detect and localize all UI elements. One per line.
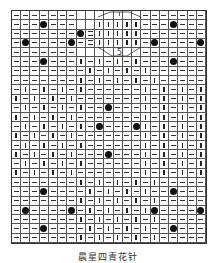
purl-dash-icon	[188, 122, 197, 131]
purl-dash-icon	[114, 122, 123, 131]
purl-dash-icon	[49, 39, 58, 48]
purl-dash-icon	[197, 224, 206, 233]
knit-bar-icon	[141, 187, 150, 196]
purl-dash-icon	[58, 150, 67, 159]
purl-dash-icon	[67, 48, 76, 57]
purl-dash-icon	[77, 169, 86, 178]
knit-bar-icon	[104, 224, 113, 233]
purl-dash-icon	[169, 234, 178, 243]
knit-bar-icon	[77, 85, 86, 94]
knit-bar-icon	[95, 178, 104, 187]
purl-dash-icon	[169, 197, 178, 206]
purl-dash-icon	[58, 76, 67, 85]
purl-dash-icon	[132, 224, 141, 233]
purl-dash-icon	[188, 11, 197, 20]
purl-dash-icon	[21, 169, 30, 178]
knit-bar-icon	[151, 76, 160, 85]
knit-bar-icon	[178, 113, 187, 122]
purl-dash-icon	[123, 159, 132, 168]
purl-dash-icon	[151, 30, 160, 39]
knit-bar-icon	[77, 76, 86, 85]
purl-dash-icon	[160, 215, 169, 224]
purl-dash-icon	[40, 113, 49, 122]
purl-dash-icon	[49, 122, 58, 131]
knit-bar-icon	[77, 159, 86, 168]
knit-bar-icon	[114, 215, 123, 224]
knit-bar-icon	[86, 187, 95, 196]
purl-dash-icon	[86, 234, 95, 243]
purl-dash-icon	[67, 76, 76, 85]
purl-dash-icon	[141, 30, 150, 39]
knit-bar-icon	[12, 95, 21, 104]
knit-bar-icon	[58, 141, 67, 150]
purl-dash-icon	[49, 159, 58, 168]
purl-dash-icon	[188, 159, 197, 168]
knit-bar-icon	[197, 95, 206, 104]
knit-bar-icon	[132, 215, 141, 224]
knit-bar-icon	[58, 159, 67, 168]
purl-dash-icon	[30, 39, 39, 48]
knit-bar-icon	[123, 187, 132, 196]
purl-dash-icon	[141, 197, 150, 206]
purl-dash-icon	[151, 187, 160, 196]
bobble-dot-icon	[169, 187, 178, 196]
purl-dash-icon	[40, 95, 49, 104]
purl-dash-icon	[123, 215, 132, 224]
knit-bar-icon	[86, 67, 95, 76]
purl-dash-icon	[30, 159, 39, 168]
purl-dash-icon	[188, 141, 197, 150]
purl-dash-icon	[104, 215, 113, 224]
purl-dash-icon	[30, 215, 39, 224]
purl-dash-icon	[58, 132, 67, 141]
purl-dash-icon	[132, 206, 141, 215]
bobble-dot-icon	[77, 30, 86, 39]
knit-bar-icon	[178, 132, 187, 141]
purl-dash-icon	[30, 57, 39, 66]
purl-dash-icon	[21, 224, 30, 233]
purl-dash-icon	[114, 159, 123, 168]
purl-dash-icon	[12, 48, 21, 57]
purl-dash-icon	[95, 224, 104, 233]
purl-dash-icon	[21, 57, 30, 66]
purl-dash-icon	[104, 141, 113, 150]
knit-bar-icon	[178, 95, 187, 104]
purl-dash-icon	[95, 132, 104, 141]
purl-dash-icon	[58, 224, 67, 233]
purl-dash-icon	[30, 20, 39, 29]
knit-bar-icon	[160, 150, 169, 159]
purl-dash-icon	[67, 178, 76, 187]
purl-dash-icon	[86, 141, 95, 150]
knit-bar-icon	[114, 178, 123, 187]
purl-dash-icon	[77, 132, 86, 141]
knit-bar-icon	[86, 206, 95, 215]
purl-dash-icon	[95, 85, 104, 94]
purl-dash-icon	[49, 20, 58, 29]
purl-dash-icon	[178, 215, 187, 224]
knit-bar-icon	[58, 104, 67, 113]
purl-dash-icon	[21, 187, 30, 196]
purl-dash-icon	[67, 215, 76, 224]
knit-bar-icon	[114, 76, 123, 85]
knit-bar-icon	[151, 178, 160, 187]
purl-dash-icon	[40, 30, 49, 39]
purl-dash-icon	[30, 11, 39, 20]
bobble-dot-icon	[40, 57, 49, 66]
purl-dash-icon	[86, 169, 95, 178]
knit-bar-icon	[21, 122, 30, 131]
empty-cell	[132, 11, 141, 20]
purl-dash-icon	[12, 85, 21, 94]
purl-dash-icon	[21, 30, 30, 39]
purl-dash-icon	[49, 215, 58, 224]
purl-dash-icon	[178, 234, 187, 243]
knit-bar-icon	[77, 215, 86, 224]
purl-dash-icon	[114, 132, 123, 141]
purl-dash-icon	[151, 159, 160, 168]
knit-bar-icon	[123, 30, 132, 39]
empty-cell	[77, 11, 86, 20]
purl-dash-icon	[169, 150, 178, 159]
purl-dash-icon	[67, 234, 76, 243]
purl-dash-icon	[49, 224, 58, 233]
knit-bar-icon	[178, 104, 187, 113]
purl-dash-icon	[141, 20, 150, 29]
purl-dash-icon	[123, 85, 132, 94]
